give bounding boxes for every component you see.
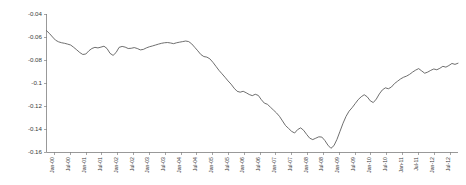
x-tick-label: Jul-11 <box>413 157 419 171</box>
y-tick-label: -0.14 <box>28 125 43 132</box>
x-tick-label: Jan-05 <box>208 157 214 173</box>
x-tick-label: Jul-00 <box>65 157 71 171</box>
x-tick-label: Jul-06 <box>255 157 261 171</box>
x-tick-label: Jul-08 <box>318 157 324 171</box>
x-tick-label: Jul-02 <box>129 157 135 171</box>
x-tick-label: Jan-08 <box>303 157 309 173</box>
x-tick-label: Jul-04 <box>192 157 198 171</box>
x-tick-label: Jul-01 <box>97 157 103 171</box>
x-tick-label: Jan-02 <box>113 157 119 173</box>
x-tick-label: Jul-09 <box>350 157 356 171</box>
y-tick-label: -0.16 <box>28 148 43 155</box>
x-tick-label: Jul-10 <box>382 157 388 171</box>
y-tick-label: -0.06 <box>28 33 43 40</box>
y-tick-label: -0.12 <box>28 102 43 109</box>
x-tick-label: Jan-06 <box>239 157 245 173</box>
y-tick-label: -0.04 <box>28 10 43 17</box>
y-tick-label: -0.08 <box>28 56 43 63</box>
x-tick-label: Jan-01 <box>81 157 87 173</box>
y-tick-label: -0.1 <box>31 79 42 86</box>
line-chart-figure: -0.04-0.06-0.08-0.1-0.12-0.14-0.16 Jan-0… <box>0 0 466 185</box>
x-tick-label: Jan-04 <box>176 157 182 173</box>
x-tick-label: Jul-03 <box>160 157 166 171</box>
x-tick-label: Jul-05 <box>224 157 230 171</box>
x-tick-label: Jan-09 <box>334 157 340 173</box>
x-tick-label: Jan-03 <box>144 157 150 173</box>
x-tick-label: Jul-12 <box>445 157 451 171</box>
x-tick-label: Jul-07 <box>287 157 293 171</box>
x-tick-label: Jan-11 <box>398 157 404 173</box>
x-tick-label: Jan-10 <box>366 157 372 173</box>
x-tick-label: Jan-07 <box>271 157 277 173</box>
chart-canvas: -0.04-0.06-0.08-0.1-0.12-0.14-0.16 Jan-0… <box>0 0 466 185</box>
x-tick-label: Jan-12 <box>429 157 435 173</box>
x-tick-label: Jan-00 <box>49 157 55 173</box>
